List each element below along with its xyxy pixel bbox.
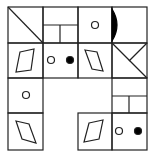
circle-icon xyxy=(23,92,30,99)
cell-r3c0 xyxy=(8,113,43,150)
cell-r0c0 xyxy=(8,7,43,43)
cell-r0c3 xyxy=(112,7,147,43)
parallelogram-icon xyxy=(16,121,36,143)
circle-icon xyxy=(92,22,99,29)
dot-icon xyxy=(135,128,142,135)
cell-r3c3 xyxy=(112,113,147,150)
puzzle-grid xyxy=(0,0,148,158)
cell-r1c0 xyxy=(8,43,43,78)
dot-icon xyxy=(67,57,74,64)
cell-r0c2 xyxy=(78,7,112,43)
cell-r1c3 xyxy=(112,43,147,78)
parallelogram-icon xyxy=(84,120,103,142)
parallelogram-icon xyxy=(16,49,34,72)
cell-r0c1 xyxy=(43,7,78,43)
half-circle-icon xyxy=(112,9,117,41)
circle-icon xyxy=(48,57,55,64)
cell-r3c2 xyxy=(78,113,112,150)
cell-r1c1 xyxy=(43,43,78,78)
parallelogram-icon xyxy=(85,50,103,71)
cell-r2c0 xyxy=(8,78,43,113)
circle-icon xyxy=(116,128,123,135)
cell-r1c2 xyxy=(78,43,112,78)
diagonal-line xyxy=(8,7,43,43)
cell-r2c3 xyxy=(112,78,147,113)
